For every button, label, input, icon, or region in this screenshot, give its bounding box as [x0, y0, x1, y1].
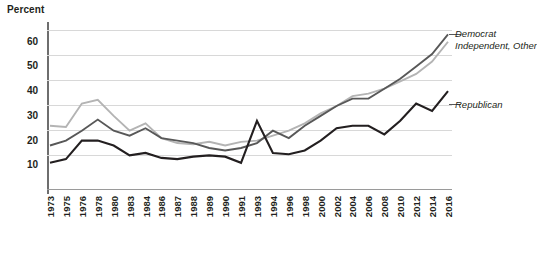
x-tick-label-1989: 1989: [205, 196, 215, 248]
x-tick-label-2002: 2002: [333, 196, 343, 248]
x-tick-label-1991: 1991: [237, 196, 247, 248]
series-label-independent: Independent, Other: [455, 40, 537, 51]
x-tick-label-1993: 1993: [253, 196, 263, 248]
x-tick-label-1980: 1980: [110, 196, 120, 248]
x-tick-label-1994: 1994: [269, 196, 279, 248]
series-lines: [47, 22, 452, 190]
x-tick-label-2000: 2000: [317, 196, 327, 248]
x-tick-label-1986: 1986: [157, 196, 167, 248]
x-tick-label-2012: 2012: [412, 196, 422, 248]
x-tick-label-2010: 2010: [396, 196, 406, 248]
series-label-republican: Republican: [455, 99, 503, 110]
x-tick-label-2004: 2004: [348, 196, 358, 248]
x-tick-label-1975: 1975: [62, 196, 72, 248]
x-tick-label-2014: 2014: [428, 196, 438, 248]
x-tick-label-1990: 1990: [221, 196, 231, 248]
y-tick-label-10: 10: [8, 160, 38, 170]
x-tick-label-1987: 1987: [173, 196, 183, 248]
x-tick-label-1978: 1978: [94, 196, 104, 248]
y-tick-label-50: 50: [8, 61, 38, 71]
series-label-democrat: Democrat: [455, 28, 496, 39]
y-tick-label-20: 20: [8, 136, 38, 146]
x-tick-label-2016: 2016: [444, 196, 454, 248]
y-axis-title: Percent: [7, 4, 44, 15]
x-tick-label-2008: 2008: [380, 196, 390, 248]
y-tick-label-30: 30: [8, 111, 38, 121]
x-tick-label-1976: 1976: [78, 196, 88, 248]
x-tick-labels: 1973197519761978198019831984198619871988…: [47, 196, 452, 252]
x-tick-label-1984: 1984: [142, 196, 152, 248]
x-tick-label-1998: 1998: [301, 196, 311, 248]
y-tick-label-60: 60: [8, 37, 38, 47]
x-tick-label-2006: 2006: [364, 196, 374, 248]
plot-area: [47, 22, 452, 190]
x-tick-label-1983: 1983: [126, 196, 136, 248]
y-tick-label-40: 40: [8, 86, 38, 96]
series-line-democrat: [50, 34, 448, 150]
x-tick-label-1988: 1988: [189, 196, 199, 248]
x-tick-label-1996: 1996: [285, 196, 295, 248]
x-tick-label-1973: 1973: [46, 196, 56, 248]
